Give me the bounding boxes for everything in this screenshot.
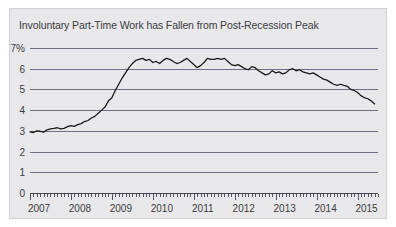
x-tick xyxy=(282,194,283,197)
x-tick xyxy=(375,194,376,197)
chart-figure: Involuntary Part-Time Work has Fallen fr… xyxy=(0,0,396,227)
x-tick xyxy=(57,194,58,197)
x-tick xyxy=(163,194,164,197)
x-tick-label: 2014 xyxy=(314,203,336,214)
x-tick xyxy=(272,194,273,197)
x-tick xyxy=(132,194,133,197)
x-tick xyxy=(211,194,212,197)
x-tick xyxy=(156,194,157,197)
x-tick xyxy=(81,194,82,197)
x-tick xyxy=(228,194,229,197)
x-tick xyxy=(238,194,239,197)
x-tick xyxy=(320,194,321,197)
x-tick xyxy=(218,194,219,197)
series-line-chart xyxy=(30,48,378,193)
x-tick xyxy=(122,194,123,197)
y-tick-label: 2 xyxy=(19,146,25,157)
x-tick xyxy=(248,194,249,197)
x-tick-label: 2015 xyxy=(355,203,377,214)
y-tick-label: 6 xyxy=(19,63,25,74)
x-tick xyxy=(194,194,195,200)
x-tick xyxy=(344,194,345,197)
x-tick xyxy=(173,194,174,197)
x-tick xyxy=(105,194,106,197)
x-tick xyxy=(61,194,62,197)
x-tick xyxy=(214,194,215,197)
x-tick xyxy=(139,194,140,197)
x-tick xyxy=(68,194,69,197)
x-tick xyxy=(265,194,266,197)
x-tick xyxy=(143,194,144,197)
x-tick xyxy=(269,194,270,197)
x-tick xyxy=(33,194,34,197)
x-tick xyxy=(40,194,41,197)
x-tick xyxy=(64,194,65,197)
x-tick xyxy=(351,194,352,197)
x-tick xyxy=(146,194,147,197)
x-tick xyxy=(323,194,324,197)
x-tick xyxy=(102,194,103,197)
x-tick xyxy=(262,194,263,197)
x-tick xyxy=(74,194,75,197)
x-tick xyxy=(47,194,48,197)
x-tick xyxy=(347,194,348,197)
x-tick xyxy=(279,194,280,197)
x-tick xyxy=(170,194,171,197)
x-tick xyxy=(44,194,45,197)
x-tick xyxy=(235,194,236,200)
x-tick xyxy=(371,194,372,197)
x-tick xyxy=(204,194,205,197)
x-tick xyxy=(378,194,379,197)
x-tick-label: 2013 xyxy=(274,203,296,214)
x-tick xyxy=(54,194,55,197)
x-tick xyxy=(313,194,314,197)
x-tick-label: 2011 xyxy=(192,203,214,214)
x-tick xyxy=(286,194,287,197)
x-tick-label: 2009 xyxy=(110,203,132,214)
x-tick xyxy=(115,194,116,197)
x-tick xyxy=(149,194,150,197)
x-tick xyxy=(231,194,232,197)
x-tick xyxy=(50,194,51,197)
x-tick xyxy=(95,194,96,197)
series-line-involuntary-part-time xyxy=(30,58,375,132)
x-tick xyxy=(276,194,277,200)
x-tick xyxy=(197,194,198,197)
x-tick xyxy=(364,194,365,197)
x-tick xyxy=(119,194,120,197)
x-tick-label: 2010 xyxy=(151,203,173,214)
x-tick-label: 2012 xyxy=(233,203,255,214)
x-tick xyxy=(166,194,167,197)
x-tick xyxy=(354,194,355,197)
x-tick xyxy=(334,194,335,197)
x-tick xyxy=(71,194,72,200)
y-tick-label: 4 xyxy=(19,105,25,116)
x-tick xyxy=(368,194,369,197)
x-tick xyxy=(259,194,260,197)
x-tick xyxy=(190,194,191,197)
x-tick xyxy=(327,194,328,197)
x-tick-label: 2008 xyxy=(69,203,91,214)
x-tick xyxy=(330,194,331,197)
x-tick xyxy=(177,194,178,197)
x-tick xyxy=(153,194,154,200)
x-tick xyxy=(201,194,202,197)
x-tick xyxy=(91,194,92,197)
x-tick xyxy=(37,194,38,197)
y-tick-label: 0 xyxy=(19,188,25,199)
x-tick xyxy=(187,194,188,197)
chart-title: Involuntary Part-Time Work has Fallen fr… xyxy=(19,19,359,31)
x-tick xyxy=(255,194,256,197)
y-tick-label: 3 xyxy=(19,125,25,136)
x-tick xyxy=(317,194,318,200)
x-tick xyxy=(98,194,99,197)
x-tick xyxy=(358,194,359,200)
x-tick xyxy=(252,194,253,197)
x-tick-label: 2007 xyxy=(28,203,50,214)
x-tick xyxy=(340,194,341,197)
x-tick xyxy=(78,194,79,197)
x-tick xyxy=(300,194,301,197)
x-tick xyxy=(108,194,109,197)
x-tick xyxy=(85,194,86,197)
x-tick xyxy=(30,194,31,200)
